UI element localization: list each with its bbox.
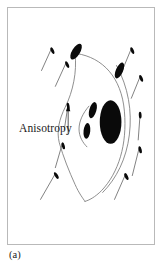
arrow-left-top-2-shaft [55, 63, 66, 87]
arrow-right-mid-2-shaft [132, 148, 139, 176]
ellipse-mid-left-upper [87, 101, 98, 119]
ellipse-mid-left-lower [83, 123, 91, 139]
figure-caption: (a) [9, 249, 21, 261]
arrow-left-bottom-1-shaft [41, 174, 56, 200]
arrow-right-mid-1-head [139, 112, 142, 119]
anisotropy-label: Anisotropy [19, 122, 72, 135]
figure-frame: Anisotropy [7, 7, 155, 245]
arrow-right-bottom-1-shaft [115, 175, 126, 200]
arrow-left-top-1-shaft [42, 49, 52, 71]
inclusion-ellipses [68, 42, 126, 144]
ellipse-upper-right [113, 61, 126, 79]
ellipse-large-center [100, 100, 122, 144]
arrow-left-mid-2-shaft [55, 144, 62, 168]
ellipse-top-crescent [68, 42, 84, 61]
arrow-right-top-2-shaft [131, 76, 140, 98]
anisotropy-label-arrow-head [66, 104, 70, 111]
figure-root: Anisotropy (a) [0, 0, 162, 269]
arrow-heads [50, 47, 144, 181]
